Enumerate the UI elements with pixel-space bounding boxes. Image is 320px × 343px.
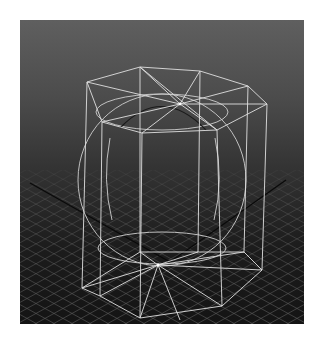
bottom-cap-center-vertex bbox=[157, 264, 160, 267]
top-cap-center-vertex bbox=[179, 103, 182, 106]
bottom-cap-spokes bbox=[82, 252, 262, 320]
viewport-canvas[interactable] bbox=[20, 20, 304, 324]
z-axis-line bbox=[170, 180, 286, 262]
sphere-meridian bbox=[106, 138, 112, 220]
sphere-equator-lower bbox=[98, 232, 226, 264]
3d-viewport[interactable] bbox=[20, 20, 304, 324]
ground-grid bbox=[20, 150, 304, 324]
sphere-wireframe[interactable] bbox=[78, 94, 246, 266]
